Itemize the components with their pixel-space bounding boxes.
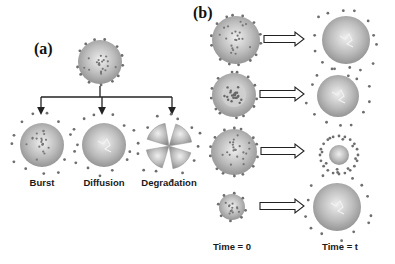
row-4-time-arrow bbox=[260, 199, 304, 213]
row-2-time-arrow bbox=[260, 87, 304, 101]
diffusion-nanoparticle bbox=[73, 113, 136, 177]
degradation-label: Degradation bbox=[141, 177, 196, 188]
row-4-initial-nanoparticle bbox=[217, 192, 247, 223]
source-nanoparticle bbox=[76, 38, 124, 86]
row-1-initial-nanoparticle bbox=[210, 14, 262, 66]
panel-b-label: (b) bbox=[193, 4, 213, 22]
burst-label: Burst bbox=[30, 177, 55, 188]
row-3-final-nanoparticle bbox=[319, 135, 360, 176]
row-2-final-nanoparticle bbox=[305, 66, 371, 127]
mechanism-branch-arrows bbox=[41, 86, 172, 111]
row-1-time-arrow bbox=[264, 32, 304, 46]
time-t-label: Time = t bbox=[322, 241, 358, 252]
panel-a-label: (a) bbox=[34, 40, 53, 58]
row-3-initial-nanoparticle bbox=[209, 127, 259, 178]
degradation-nanoparticle bbox=[137, 113, 202, 182]
row-3-time-arrow bbox=[261, 144, 304, 158]
drug-release-diagram: (a) (b) Burst Diffusion Degradation Time… bbox=[0, 0, 395, 264]
diagram-canvas bbox=[0, 0, 395, 264]
row-2-initial-nanoparticle bbox=[210, 71, 258, 120]
diffusion-label: Diffusion bbox=[83, 177, 124, 188]
time-zero-label: Time = 0 bbox=[213, 241, 251, 252]
row-1-final-nanoparticle bbox=[313, 9, 378, 77]
row-4-final-nanoparticle bbox=[304, 171, 372, 242]
burst-nanoparticle bbox=[10, 112, 76, 175]
